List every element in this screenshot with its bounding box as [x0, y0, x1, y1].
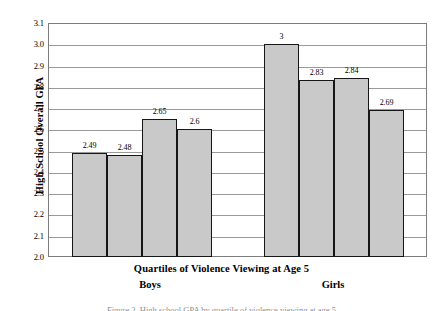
group-label-girls: Girls [293, 279, 373, 290]
y-axis-tick-label: 3.1 [0, 19, 44, 28]
gridline [49, 45, 426, 46]
figure-bar-chart: High School Overall GPA 3.13.02.92.82.72… [0, 0, 443, 311]
y-axis-tick-label: 2.1 [0, 232, 44, 241]
gridline [49, 109, 426, 110]
y-axis-tick-label: 2.2 [0, 210, 44, 219]
gridline [49, 88, 426, 89]
y-axis-tick-label: 2.8 [0, 83, 44, 92]
group-label-boys: Boys [110, 279, 190, 290]
y-axis-tick-label: 2.7 [0, 104, 44, 113]
y-axis-tick-label: 2.4 [0, 168, 44, 177]
gridline [49, 194, 426, 195]
y-axis-tick-label: 2.9 [0, 62, 44, 71]
gridline [49, 237, 426, 238]
gridline [49, 173, 426, 174]
y-axis-tick-label: 2.6 [0, 125, 44, 134]
y-axis-tick-label: 2.0 [0, 253, 44, 262]
x-axis-title: Quartiles of Violence Viewing at Age 5 [0, 263, 443, 274]
gridline [49, 130, 426, 131]
gridline [49, 215, 426, 216]
gridline [49, 152, 426, 153]
figure-caption: Figure 2. High school GPA by quartile of… [0, 305, 443, 311]
y-axis-tick-label: 2.3 [0, 189, 44, 198]
plot-area [48, 23, 427, 257]
gridline [49, 67, 426, 68]
y-axis-tick-label: 3.0 [0, 40, 44, 49]
y-axis-tick-label: 2.5 [0, 147, 44, 156]
